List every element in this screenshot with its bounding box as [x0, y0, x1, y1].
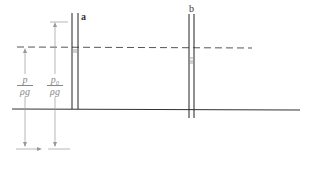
- fraction-p-over-rho-g: p ρg: [17, 74, 33, 97]
- tube-b-label: b: [189, 3, 194, 14]
- level-dashed-line: [17, 47, 252, 48]
- tube-a-label: a: [81, 11, 86, 22]
- fraction-p0-over-rho-g: p₀ ρg: [47, 74, 63, 97]
